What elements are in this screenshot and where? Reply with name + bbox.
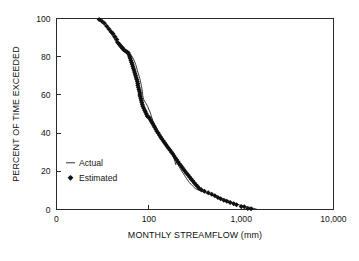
x-tick-label: 10,000 [320, 214, 347, 224]
x-axis-title: MONTHLY STREAMFLOW (mm) [128, 230, 262, 240]
x-tick-label: 0 [54, 214, 59, 224]
y-tick-label: 0 [46, 205, 51, 215]
x-tick-label: 1,000 [230, 214, 252, 224]
y-tick-label: 100 [36, 14, 51, 24]
y-tick-label: 60 [41, 90, 51, 100]
x-tick-label: 100 [142, 214, 157, 224]
legend-label-estimated: Estimated [79, 173, 117, 183]
y-axis-title: PERCENT OF TIME EXCEEDED [11, 46, 21, 181]
legend-label-actual: Actual [79, 158, 103, 168]
y-tick-label: 80 [41, 52, 51, 62]
flow-duration-chart: 01001,00010,000 020406080100 Actual Esti… [0, 0, 359, 261]
y-tick-label: 20 [41, 166, 51, 176]
y-tick-label: 40 [41, 128, 51, 138]
